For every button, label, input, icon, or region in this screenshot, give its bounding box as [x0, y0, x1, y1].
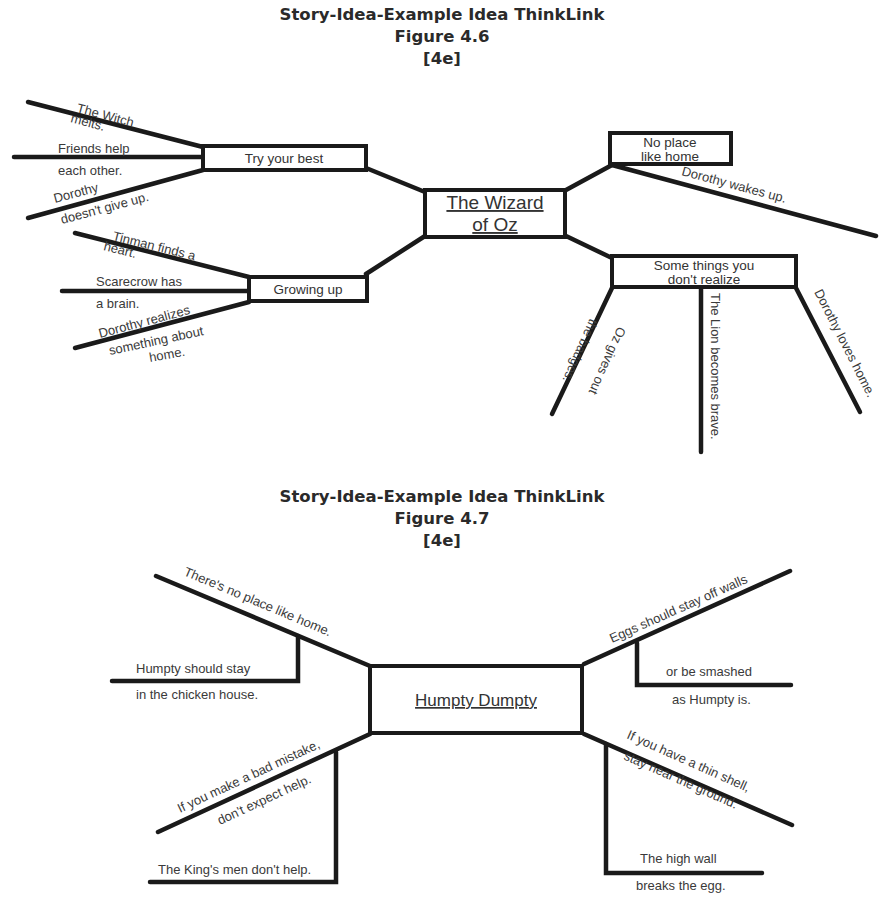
central-topic-label: Humpty Dumpty — [415, 691, 537, 710]
figure-number: Figure 4.7 — [395, 509, 490, 528]
idea-node-some-things-you-dont-realize: Some things you don't realize Oz gives o… — [552, 256, 879, 452]
connector-line — [366, 168, 425, 192]
idea-label-line2: don't realize — [668, 272, 740, 287]
idea-line — [156, 576, 370, 666]
example-text: The high wall — [640, 851, 717, 866]
figure-4-6: Story-Idea-Example Idea ThinkLink Figure… — [14, 5, 879, 452]
idea-text: There's no place like home. — [182, 564, 334, 639]
connector-line — [566, 236, 612, 258]
idea-line — [584, 571, 790, 664]
idea-label-line1: No place — [643, 135, 696, 150]
idea-label: Try your best — [245, 151, 324, 166]
idea-label: Growing up — [273, 282, 342, 297]
example-text: breaks the egg. — [636, 878, 726, 893]
figure-title: Story-Idea-Example Idea ThinkLink — [280, 5, 606, 24]
idea-top-left: There's no place like home. Humpty shoul… — [112, 564, 370, 702]
idea-top-right: Eggs should stay off walls or be smashed… — [584, 571, 791, 707]
idea-text: Eggs should stay off walls — [607, 571, 750, 646]
figure-title: Story-Idea-Example Idea ThinkLink — [280, 487, 606, 506]
figure-code: [4e] — [423, 531, 461, 550]
central-topic-line1: The Wizard — [446, 192, 543, 213]
connector-line — [566, 165, 612, 190]
example-text: in the chicken house. — [136, 687, 258, 702]
example-text: The King's men don't help. — [158, 862, 311, 877]
example-text: each other. — [58, 163, 122, 178]
idea-node-growing-up: Growing up Tinman finds a heart. Scarecr… — [62, 228, 367, 365]
idea-node-try-your-best: Try your best The Witch melts. Friends h… — [14, 100, 366, 226]
example-text: or be smashed — [666, 664, 752, 679]
idea-node-no-place-like-home: No place like home Dorothy wakes up. — [610, 133, 876, 236]
example-text: Scarecrow has — [96, 274, 182, 289]
idea-bottom-left: If you make a bad mistake, don't expect … — [150, 734, 370, 882]
example-text: The Lion becomes brave. — [708, 293, 723, 440]
figure-4-7: Story-Idea-Example Idea ThinkLink Figure… — [112, 487, 792, 893]
example-line — [612, 165, 876, 236]
example-text: as Humpty is. — [672, 692, 751, 707]
example-text: Humpty should stay — [136, 661, 251, 676]
idea-label-line1: Some things you — [654, 258, 755, 273]
central-topic-node: The Wizard of Oz — [425, 190, 565, 237]
central-topic-line2: of Oz — [472, 214, 517, 235]
idea-bottom-right: If you have a thin shell, stay near the … — [584, 727, 792, 893]
example-text: a brain. — [96, 296, 139, 311]
central-topic-node: Humpty Dumpty — [370, 666, 582, 733]
idea-label-line2: like home — [641, 149, 699, 164]
connector-line — [366, 236, 425, 274]
example-text: Friends help — [58, 141, 130, 156]
thinklink-diagrams: Story-Idea-Example Idea ThinkLink Figure… — [0, 0, 884, 918]
figure-code: [4e] — [423, 49, 461, 68]
figure-number: Figure 4.6 — [395, 27, 490, 46]
